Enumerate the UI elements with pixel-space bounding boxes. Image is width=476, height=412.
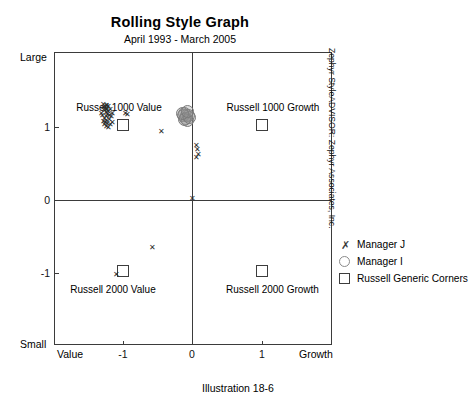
corner-marker-russell-2000-growth [256,265,268,277]
data-point-manager-i [181,105,194,118]
legend-label: Russell Generic Corners [357,273,468,284]
x-tick-label: 0 [172,348,212,360]
square-icon [338,272,352,286]
source-credit: Zephyr StyleADVISOR: Zephyr Associates, … [327,48,337,229]
y-tick-label: -1 [16,267,50,279]
x-axis-left-label: Value [57,348,83,360]
data-point-manager-j [109,119,116,126]
data-point-manager-j [124,111,131,118]
x-tick-label: -1 [103,348,143,360]
x-tick-mark [123,341,124,345]
legend-item-russell-generic-corners: Russell Generic Corners [338,270,472,287]
circle-icon [338,255,352,269]
y-axis-bottom-label: Small [20,338,46,350]
y-axis-top-label: Large [20,51,47,63]
chart-title: Rolling Style Graph [0,14,360,30]
corner-label-russell-2000-growth: Russell 2000 Growth [195,284,350,295]
figure-caption: Illustration 18-6 [0,382,476,394]
legend-item-manager-j: ✗ Manager J [338,236,472,253]
data-point-manager-j [158,128,165,135]
chart-legend: ✗ Manager J Manager I Russell Generic Co… [338,236,472,287]
y-tick-mark [55,127,59,128]
data-point-manager-j [100,101,107,108]
x-axis-right-label: Growth [299,348,333,360]
legend-item-manager-i: Manager I [338,253,472,270]
chart-subtitle: April 1993 - March 2005 [0,33,360,45]
corner-marker-russell-1000-growth [256,119,268,131]
rolling-style-graph: Rolling Style Graph April 1993 - March 2… [0,0,476,412]
data-point-manager-j [193,154,200,161]
y-tick-label: 1 [16,121,50,133]
corner-marker-russell-1000-value [117,119,129,131]
data-point-manager-j [189,195,196,202]
legend-label: Manager J [357,239,405,250]
x-tick-label: 1 [242,348,282,360]
data-point-manager-j [149,244,156,251]
x-icon: ✗ [338,238,352,252]
corner-label-russell-2000-value: Russell 2000 Value [28,284,198,295]
legend-label: Manager I [357,256,403,267]
x-tick-mark [262,341,263,345]
data-point-manager-j [113,271,120,278]
y-tick-label: 0 [16,194,50,206]
y-tick-mark [55,273,59,274]
